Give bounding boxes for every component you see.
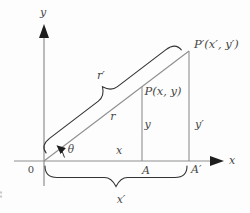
r-segment-label: r — [110, 110, 116, 123]
page-edge-artifact — [0, 195, 2, 197]
y-segment-label: y — [143, 118, 151, 131]
x-prime-segment-label: x′ — [117, 193, 126, 206]
y-prime-segment-label: y′ — [194, 118, 204, 131]
point-a-prime-label: A′ — [190, 163, 202, 176]
page-edge-artifact — [0, 191, 2, 193]
x-segment-label: x — [116, 144, 123, 157]
point-p-label: P(x, y) — [144, 84, 182, 98]
coordinate-diagram: y x 0 θ r r′ P(x, y) P′(x′, y′) x y y′ A… — [0, 0, 250, 213]
r-prime-segment-label: r′ — [97, 69, 105, 82]
x-prime-brace — [45, 166, 187, 187]
origin-label: 0 — [28, 164, 34, 175]
y-axis-label: y — [39, 6, 47, 19]
diagram-svg: y x 0 θ r r′ P(x, y) P′(x′, y′) x y y′ A… — [0, 0, 250, 213]
point-a-label: A — [141, 164, 150, 177]
x-axis-label: x — [229, 154, 236, 167]
theta-label: θ — [68, 143, 75, 155]
point-p-prime-label: P′(x′, y′) — [193, 37, 239, 51]
